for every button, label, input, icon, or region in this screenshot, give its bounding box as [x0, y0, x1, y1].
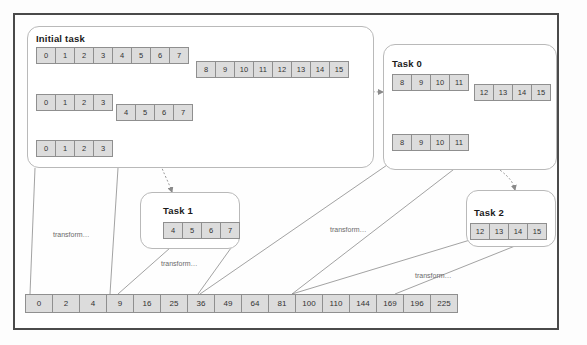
array-cell: 9 [411, 74, 431, 91]
array-cell: 196 [403, 294, 431, 313]
array-cell: 9 [106, 294, 134, 313]
array-cell: 144 [349, 294, 377, 313]
array-cell: 0 [36, 47, 56, 64]
caption-transform-left: transform… [53, 231, 90, 238]
array-cell: 110 [322, 294, 350, 313]
array-cell: 13 [291, 61, 311, 78]
array-cell: 25 [160, 294, 188, 313]
array-cell: 2 [74, 140, 94, 157]
array-cell: 81 [268, 294, 296, 313]
array-cell: 2 [74, 47, 94, 64]
array-cell: 3 [93, 94, 113, 111]
panel-task1-title: Task 1 [163, 205, 193, 216]
array-cell: 10 [430, 134, 450, 151]
array-cell: 6 [201, 222, 221, 239]
caption-transform-task1: transform… [161, 260, 198, 267]
array-cell: 64 [241, 294, 269, 313]
array-cell: 1 [55, 47, 75, 64]
array-cell: 3 [93, 140, 113, 157]
array-cell: 15 [329, 61, 349, 78]
array-cell: 7 [220, 222, 240, 239]
array-cell: 11 [449, 74, 469, 91]
panel-task2-title: Task 2 [474, 207, 504, 218]
array-cell: 13 [493, 84, 513, 101]
array-cell: 2 [52, 294, 80, 313]
array-cell: 13 [489, 223, 509, 240]
diagram-canvas: Initial task 0 1 2 3 4 5 6 7 8 9 10 11 1… [0, 0, 587, 345]
array-cell: 4 [112, 47, 132, 64]
array-cell: 8 [392, 134, 412, 151]
array-cell: 4 [79, 294, 107, 313]
array-cell: 169 [376, 294, 404, 313]
array-cell: 4 [163, 222, 183, 239]
array-initial-row3: 0 1 2 3 [36, 140, 113, 157]
array-task0-row1-left: 8 9 10 11 [392, 74, 469, 91]
array-cell: 8 [196, 61, 216, 78]
array-cell: 12 [272, 61, 292, 78]
array-cell: 2 [74, 94, 94, 111]
array-cell: 12 [470, 223, 490, 240]
array-cell: 10 [430, 74, 450, 91]
array-cell: 0 [36, 94, 56, 111]
array-cell: 7 [173, 104, 193, 121]
array-cell: 5 [182, 222, 202, 239]
array-cell: 100 [295, 294, 323, 313]
array-cell: 5 [135, 104, 155, 121]
panel-task0-title: Task 0 [392, 58, 422, 69]
caption-transform-task2: transform… [415, 272, 452, 279]
array-cell: 14 [310, 61, 330, 78]
array-task0-row2: 8 9 10 11 [392, 134, 469, 151]
array-cell: 12 [474, 84, 494, 101]
array-task1-row: 4 5 6 7 [163, 222, 240, 239]
array-cell: 8 [392, 74, 412, 91]
array-cell: 15 [527, 223, 547, 240]
array-cell: 11 [253, 61, 273, 78]
array-initial-row2-right: 4 5 6 7 [116, 104, 193, 121]
array-initial-row1-left: 0 1 2 3 4 5 6 7 [36, 47, 189, 64]
array-cell: 9 [411, 134, 431, 151]
array-cell: 16 [133, 294, 161, 313]
array-cell: 3 [93, 47, 113, 64]
array-cell: 4 [116, 104, 136, 121]
array-cell: 5 [131, 47, 151, 64]
array-task2-row: 12 13 14 15 [470, 223, 547, 240]
array-cell: 10 [234, 61, 254, 78]
array-cell: 1 [55, 140, 75, 157]
array-task0-row1-right: 12 13 14 15 [474, 84, 551, 101]
array-cell: 14 [512, 84, 532, 101]
array-cell: 9 [215, 61, 235, 78]
panel-initial-task-title: Initial task [36, 33, 85, 44]
array-cell: 225 [430, 294, 458, 313]
caption-transform-middle: transform… [330, 226, 367, 233]
array-cell: 0 [36, 140, 56, 157]
array-initial-row2-left: 0 1 2 3 [36, 94, 113, 111]
array-result-row: 0 2 4 9 16 25 36 49 64 81 100 110 144 16… [25, 294, 458, 313]
array-cell: 7 [169, 47, 189, 64]
array-cell: 36 [187, 294, 215, 313]
array-cell: 6 [154, 104, 174, 121]
array-cell: 14 [508, 223, 528, 240]
array-initial-row1-right: 8 9 10 11 12 13 14 15 [196, 61, 349, 78]
panel-task1[interactable] [140, 192, 240, 249]
array-cell: 6 [150, 47, 170, 64]
array-cell: 1 [55, 94, 75, 111]
array-cell: 0 [25, 294, 53, 313]
array-cell: 11 [449, 134, 469, 151]
array-cell: 15 [531, 84, 551, 101]
array-cell: 49 [214, 294, 242, 313]
